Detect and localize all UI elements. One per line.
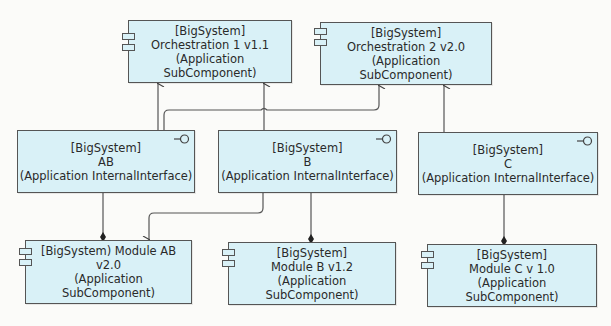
edge-b-modab bbox=[149, 193, 263, 240]
node-module-c[interactable]: [BigSystem] Module C v 1.0 (Application … bbox=[427, 244, 597, 307]
node-label: [BigSystem] AB (Application InternalInte… bbox=[20, 141, 193, 183]
node-interface-c[interactable]: [BigSystem] C (Application InternalInter… bbox=[418, 132, 598, 195]
interface-icon bbox=[376, 134, 392, 145]
edge-ab-orch2 bbox=[164, 85, 379, 130]
node-orchestration-2[interactable]: [BigSystem] Orchestration 2 v2.0 (Applic… bbox=[320, 22, 492, 85]
node-module-b[interactable]: [BigSystem] Module B v1.2 (Application S… bbox=[228, 242, 396, 305]
node-label: [BigSystem] Orchestration 1 v1.1 (Applic… bbox=[151, 24, 269, 80]
node-label: [BigSystem] Module C v 1.0 (Application … bbox=[465, 248, 558, 304]
node-label: [BigSystem] C (Application InternalInter… bbox=[422, 143, 595, 185]
node-label: [BigSystem] Orchestration 2 v2.0 (Applic… bbox=[347, 26, 465, 82]
node-interface-b[interactable]: [BigSystem] B (Application InternalInter… bbox=[218, 130, 397, 193]
node-label: [BigSystem] Module B v1.2 (Application S… bbox=[265, 246, 358, 302]
interface-icon bbox=[577, 136, 593, 147]
node-label: [BigSystem) Module AB v2.0 (Application … bbox=[41, 244, 176, 300]
node-label: [BigSystem] B (Application InternalInter… bbox=[221, 141, 394, 183]
node-orchestration-1[interactable]: [BigSystem] Orchestration 1 v1.1 (Applic… bbox=[128, 20, 292, 83]
node-module-ab[interactable]: [BigSystem) Module AB v2.0 (Application … bbox=[25, 240, 192, 304]
interface-icon bbox=[174, 134, 190, 145]
node-interface-ab[interactable]: [BigSystem] AB (Application InternalInte… bbox=[17, 130, 195, 193]
